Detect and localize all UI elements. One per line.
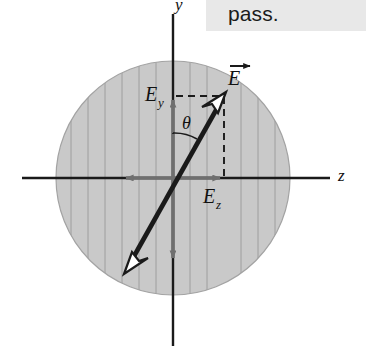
Ey-label-base: E bbox=[145, 84, 157, 104]
E-vector-label: E bbox=[228, 68, 240, 88]
Ez-label-base: E bbox=[203, 186, 215, 206]
figure-root: E E y E z θ y z pass. bbox=[0, 0, 366, 359]
z-axis-label: z bbox=[338, 167, 345, 184]
caption-text: pass. bbox=[228, 1, 279, 27]
Ey-label-subscript: y bbox=[158, 96, 164, 109]
vector-diagram-canvas bbox=[0, 0, 366, 359]
theta-label: θ bbox=[182, 114, 191, 132]
Ez-label-subscript: z bbox=[216, 198, 221, 211]
y-axis-label: y bbox=[175, 0, 183, 13]
